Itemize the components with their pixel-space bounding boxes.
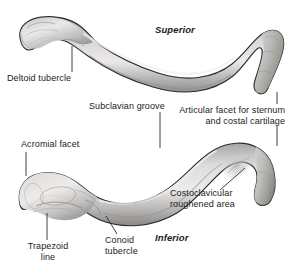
clavicle-figure: Superior Deltoid tubercle Articular face…: [0, 0, 297, 274]
label-conoid-tubercle-line1: Conoid: [105, 235, 134, 246]
label-articular-facet-line1: Articular facet for sternum: [163, 105, 285, 116]
label-trapezoid-line-line2: line: [18, 252, 78, 263]
label-costoclavicular-line1: Costoclavicular: [170, 188, 233, 199]
label-deltoid-tubercle: Deltoid tubercle: [7, 73, 71, 84]
label-costoclavicular-line2: roughened area: [170, 199, 235, 210]
orientation-label-superior: Superior: [155, 25, 217, 36]
label-conoid-tubercle-line2: tubercle: [105, 246, 138, 257]
label-trapezoid-line-line1: Trapezoid: [18, 241, 78, 252]
inferior-clavicle-bone: [19, 143, 275, 226]
label-acromial-facet: Acromial facet: [21, 139, 79, 150]
label-subclavian-groove: Subclavian groove: [89, 101, 165, 112]
clavicle-illustration: [0, 0, 297, 274]
label-articular-facet-line2: and costal cartilage: [163, 116, 285, 127]
orientation-label-inferior: Inferior: [155, 233, 213, 244]
